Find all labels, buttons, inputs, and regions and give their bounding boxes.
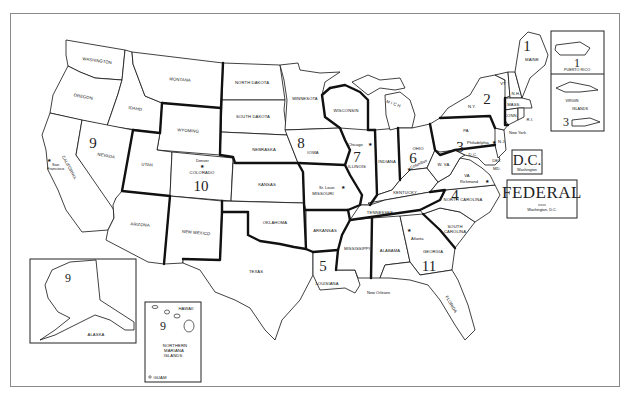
region-9-ak-label: 9: [65, 271, 71, 285]
svg-text:NEBRASKA: NEBRASKA: [252, 147, 276, 152]
svg-text:GEORGIA: GEORGIA: [423, 249, 443, 254]
region-9-hi-label: 9: [160, 319, 166, 333]
svg-text:PUERTO RICO: PUERTO RICO: [564, 68, 590, 72]
svg-text:Washington, D.C.: Washington, D.C.: [527, 208, 557, 212]
city-new-york: New York: [509, 130, 526, 135]
svg-text:KENTUCKY: KENTUCKY: [393, 190, 417, 195]
city-st-louis: St. Louis: [319, 185, 335, 190]
svg-text:VT: VT: [500, 81, 506, 86]
city-new-orleans: New Orleans: [367, 290, 390, 295]
region-1-label: 1: [523, 38, 531, 54]
svg-text:ALABAMA: ALABAMA: [380, 248, 401, 253]
svg-text:R.I.: R.I.: [527, 117, 534, 122]
state-new-mexico: NEW MEXICO: [164, 196, 222, 264]
svg-text:SOUTH DAKOTA: SOUTH DAKOTA: [236, 114, 270, 119]
dc-box: D.C. Washington: [512, 150, 542, 174]
city-chicago: Chicago: [348, 142, 363, 147]
state-new-jersey: N.J.: [495, 128, 506, 158]
state-north-dakota: NORTH DAKOTA: [222, 63, 285, 100]
region-9-label: 9: [89, 135, 97, 151]
svg-text:VA: VA: [464, 173, 470, 178]
svg-text:IOWA: IOWA: [307, 150, 319, 155]
star-icon: ★: [341, 184, 346, 190]
svg-text:TEXAS: TEXAS: [249, 269, 263, 274]
inset-hawaii-marianas-guam: HAWAII 9 NORTHERN MARIANA ISLANDS GUAM: [145, 302, 201, 382]
state-maine: MAINE: [515, 32, 548, 98]
svg-text:ALASKA: ALASKA: [88, 332, 105, 337]
svg-text:N.J.: N.J.: [498, 139, 506, 144]
svg-text:ARKANSAS: ARKANSAS: [313, 228, 337, 233]
star-icon: ★: [407, 227, 412, 233]
svg-text:DEL.: DEL.: [492, 158, 502, 163]
svg-text:INDIANA: INDIANA: [378, 159, 396, 164]
city-philadelphia: Philadelphia: [467, 140, 490, 145]
state-south-dakota: SOUTH DAKOTA: [221, 100, 287, 135]
star-icon: ★: [200, 163, 205, 169]
city-atlanta: Atlanta: [411, 236, 424, 241]
svg-text:LOUISIANA: LOUISIANA: [315, 281, 338, 286]
svg-text:MAINE: MAINE: [525, 57, 539, 62]
svg-text:NORTH DAKOTA: NORTH DAKOTA: [235, 80, 269, 85]
federal-box: FEDERAL Washington, D.C.: [502, 180, 582, 218]
svg-text:MISSOURI: MISSOURI: [312, 191, 334, 196]
svg-text:FEDERAL: FEDERAL: [502, 183, 582, 202]
state-arizona: ARIZONA: [106, 191, 170, 264]
svg-text:Francisco: Francisco: [47, 166, 65, 171]
svg-text:W. VA.: W. VA.: [437, 162, 450, 167]
svg-text:VIRGIN: VIRGIN: [565, 99, 578, 103]
state-rhode-island: R.I.: [518, 108, 533, 122]
city-richmond: Richmond: [460, 179, 478, 184]
svg-text:OKLAHOMA: OKLAHOMA: [263, 220, 288, 225]
star-icon: ★: [368, 141, 373, 147]
federal-regions-map: WASHINGTON OREGON IDAHO MONTANA WYOMING …: [0, 0, 628, 395]
svg-text:N.H.: N.H.: [512, 91, 521, 96]
svg-text:UTAH: UTAH: [141, 162, 153, 168]
svg-text:MD.: MD.: [493, 166, 501, 171]
svg-text:ISLANDS: ISLANDS: [164, 353, 183, 358]
svg-text:GUAM: GUAM: [154, 375, 167, 380]
region-3-label: 3: [456, 139, 464, 155]
svg-text:Washington: Washington: [517, 168, 537, 172]
svg-text:WISCONSIN: WISCONSIN: [333, 108, 358, 113]
star-icon: ★: [492, 139, 497, 145]
inset-puerto-rico-virgin-islands: 1 PUERTO RICO VIRGIN ISLANDS 3: [551, 31, 604, 131]
state-kansas: KANSAS: [231, 163, 304, 203]
state-wyoming: WYOMING: [157, 103, 221, 155]
region-7-label: 7: [353, 149, 361, 165]
svg-text:MISSISSIPPI: MISSISSIPPI: [344, 246, 370, 251]
svg-text:PA: PA: [463, 128, 469, 133]
svg-text:MINNESOTA: MINNESOTA: [292, 96, 318, 101]
svg-text:KANSAS: KANSAS: [258, 182, 276, 187]
svg-text:MASS.: MASS.: [507, 102, 521, 107]
star-icon: ★: [485, 178, 490, 184]
region-3-vi-label: 3: [563, 115, 569, 129]
region-8-label: 8: [297, 135, 305, 151]
region-4-label: 4: [451, 187, 459, 203]
region-11-label: 11: [422, 258, 436, 274]
svg-text:N.Y.: N.Y.: [468, 104, 476, 109]
region-2-label: 2: [483, 91, 491, 107]
svg-text:CAROLINA: CAROLINA: [444, 229, 466, 234]
svg-text:ISLANDS: ISLANDS: [572, 107, 589, 111]
inset-alaska: 9 ALASKA: [30, 259, 136, 343]
region-5-label: 5: [319, 258, 327, 274]
svg-text:D.C.: D.C.: [469, 152, 478, 157]
svg-text:COLORADO: COLORADO: [190, 170, 215, 175]
svg-text:NORTH CAROLINA: NORTH CAROLINA: [444, 197, 483, 202]
svg-text:HAWAII: HAWAII: [178, 306, 193, 311]
svg-text:D.C.: D.C.: [513, 152, 541, 168]
region-10-label: 10: [194, 178, 209, 194]
